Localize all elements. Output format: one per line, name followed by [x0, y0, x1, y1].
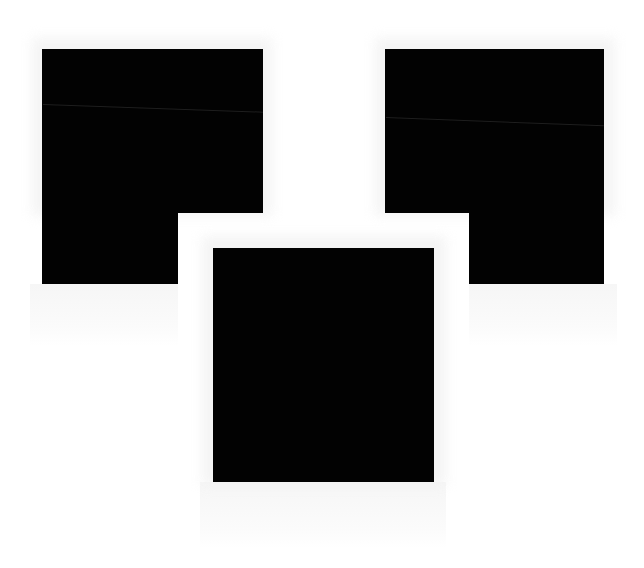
right-photo-image [385, 49, 604, 213]
left-photo-image-lower [42, 212, 178, 284]
center-photo-image [213, 248, 434, 482]
left-photo-image [42, 49, 263, 213]
center-photo-margin [200, 482, 446, 548]
left-photo-margin [30, 284, 178, 346]
right-photo-margin [469, 284, 617, 346]
right-photo-image-lower [469, 212, 604, 284]
